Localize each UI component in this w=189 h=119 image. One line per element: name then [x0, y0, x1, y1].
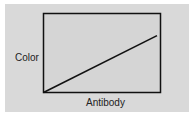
x-axis-label: Antibody — [86, 97, 125, 108]
y-axis-label: Color — [15, 52, 39, 63]
plot-area — [44, 14, 161, 93]
